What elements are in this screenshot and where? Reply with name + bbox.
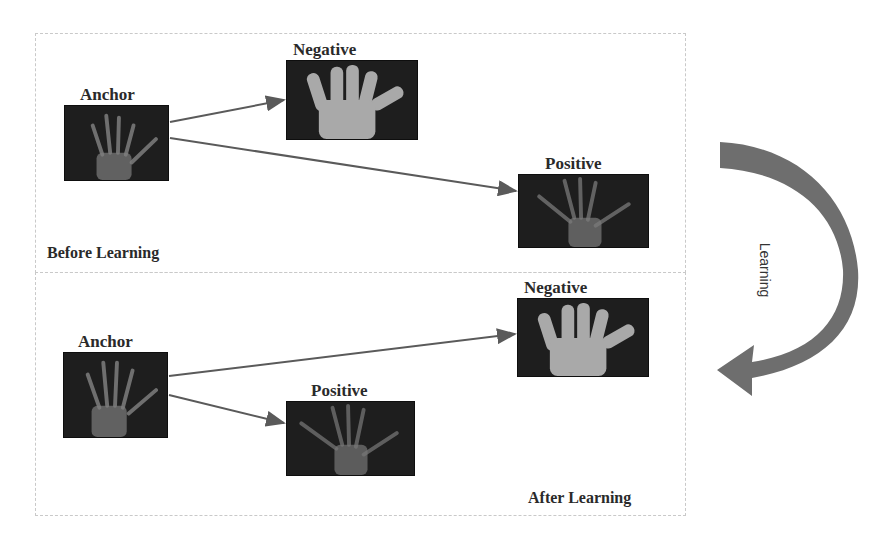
after-learning-caption: After Learning bbox=[528, 489, 631, 507]
hand-xray-icon bbox=[287, 402, 414, 475]
arrow-anchor-to-negative-after bbox=[169, 334, 515, 376]
learning-label: Learning bbox=[757, 243, 773, 298]
learning-curved-arrow-icon bbox=[717, 142, 858, 396]
negative-xray-image-after bbox=[517, 298, 649, 377]
positive-label-before: Positive bbox=[545, 154, 602, 174]
connector-arrows bbox=[0, 0, 887, 540]
hand-xray-icon bbox=[65, 106, 168, 180]
anchor-xray-image-after bbox=[63, 352, 168, 438]
anchor-label-before: Anchor bbox=[80, 85, 135, 105]
anchor-xray-image-before bbox=[64, 105, 169, 181]
hand-xray-icon bbox=[64, 353, 167, 437]
arrow-anchor-to-positive-after bbox=[169, 395, 284, 423]
hand-xray-icon bbox=[519, 175, 648, 247]
hand-xray-icon bbox=[518, 299, 648, 376]
negative-label-after: Negative bbox=[524, 278, 587, 298]
hand-xray-icon bbox=[287, 61, 417, 139]
negative-label-before: Negative bbox=[293, 40, 356, 60]
arrow-anchor-to-positive-before bbox=[170, 138, 516, 191]
negative-xray-image-before bbox=[286, 60, 418, 140]
positive-xray-image-before bbox=[518, 174, 649, 248]
positive-label-after: Positive bbox=[311, 381, 368, 401]
arrow-anchor-to-negative-before bbox=[170, 100, 284, 122]
positive-xray-image-after bbox=[286, 401, 415, 476]
anchor-label-after: Anchor bbox=[78, 332, 133, 352]
before-learning-caption: Before Learning bbox=[47, 244, 159, 262]
